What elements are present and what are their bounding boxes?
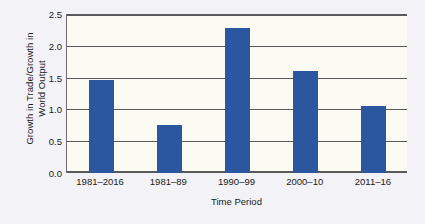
bar-slot: [67, 14, 135, 173]
y-axis-tick-labels: 0.00.51.01.52.02.5: [36, 14, 62, 173]
y-axis-tick-label: 2.5: [36, 9, 62, 20]
y-axis-tick-label: 1.5: [36, 72, 62, 83]
x-axis-tick-label: 2011–16: [339, 176, 407, 192]
bar[interactable]: [293, 71, 318, 173]
y-axis-title-line-1: Growth in Trade/Growth in: [24, 32, 36, 144]
plot-area: [66, 14, 407, 173]
bars-group: [67, 14, 407, 173]
y-axis-tick-label: 2.0: [36, 40, 62, 51]
bar-slot: [339, 14, 407, 173]
x-axis-title: Time Period: [66, 196, 407, 207]
bar[interactable]: [225, 28, 250, 173]
bar[interactable]: [157, 125, 182, 173]
x-axis-tick-labels: 1981–20161981–891990–992000–102011–16: [66, 176, 407, 192]
x-axis-tick-label: 1981–2016: [66, 176, 134, 192]
bar-chart-figure: Growth in Trade/Growth in World Output 0…: [0, 0, 425, 224]
y-axis-tick-label: 0.5: [36, 136, 62, 147]
y-axis-tick-label: 1.0: [36, 104, 62, 115]
bar[interactable]: [89, 80, 114, 173]
y-axis-tick-label: 0.0: [36, 168, 62, 179]
x-axis-tick-label: 1981–89: [134, 176, 202, 192]
bar-slot: [203, 14, 271, 173]
bar[interactable]: [361, 106, 386, 173]
bar-slot: [271, 14, 339, 173]
x-axis-tick-label: 2000–10: [271, 176, 339, 192]
x-axis-tick-label: 1990–99: [202, 176, 270, 192]
bar-slot: [135, 14, 203, 173]
